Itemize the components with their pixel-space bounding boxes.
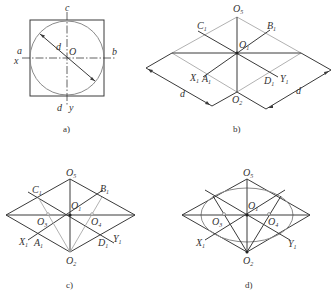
label-X1: X1: [189, 72, 199, 84]
label-d-left: d: [180, 88, 186, 99]
center-point-O1: [68, 213, 71, 216]
label-O1: O1: [248, 200, 258, 212]
caption-c: c): [66, 280, 73, 290]
label-O3: O3: [212, 216, 222, 228]
label-C1: C1: [32, 184, 42, 196]
label-A1: A1: [33, 237, 43, 249]
extension-left: [146, 53, 172, 68]
center-point-O1: [235, 51, 238, 54]
arrowhead-icon: [205, 101, 210, 105]
point-O2: [246, 251, 249, 254]
label-O1: O1: [239, 39, 249, 51]
label-Y1: Y1: [113, 233, 122, 245]
label-c: c: [65, 2, 70, 13]
label-B1: B1: [267, 20, 276, 32]
label-O1: O1: [71, 200, 81, 212]
label-O5: O5: [243, 167, 253, 179]
label-D1: D1: [263, 75, 274, 87]
label-O3: O3: [37, 216, 47, 228]
center-point-O1: [245, 213, 248, 216]
label-O: O: [69, 46, 76, 57]
label-B1: B1: [100, 183, 109, 195]
extension-right: [301, 53, 331, 70]
label-Y1: Y1: [288, 238, 297, 250]
label-O5: O5: [233, 3, 243, 15]
isometric-circle-construction-figure: c a x b d y O d a) O5 C1 B1 O1: [0, 0, 333, 297]
label-O4: O4: [268, 216, 278, 228]
caption-a: a): [63, 124, 70, 134]
point-O4: [268, 213, 271, 216]
label-O2: O2: [243, 255, 253, 267]
label-A1: A1: [201, 73, 211, 85]
label-Y1: Y1: [280, 73, 289, 85]
point-O4: [91, 213, 94, 216]
label-C1: C1: [197, 20, 207, 32]
label-b: b: [112, 46, 117, 57]
panel-d: O5 O1 O3 O4 X1 Y1 O2 d): [182, 167, 310, 290]
label-O4: O4: [91, 216, 101, 228]
label-x: x: [13, 55, 19, 66]
label-d-bottom: d: [57, 102, 63, 113]
diameter-dimension-line: [40, 34, 95, 81]
label-d-right: d: [296, 85, 302, 96]
point-O3: [47, 213, 50, 216]
caption-b: b): [233, 124, 241, 134]
label-O5: O5: [66, 167, 76, 179]
panel-a: c a x b d y O d a): [13, 2, 117, 134]
label-O2: O2: [66, 255, 76, 267]
panel-c: O5 C1 B1 O1 O3 O4 X1 A1 D1 Y1 O2 c): [6, 167, 135, 290]
label-O2: O2: [232, 94, 242, 106]
arrowhead-icon: [324, 71, 329, 75]
panel-b: O5 C1 B1 O1 X1 A1 Y1 D1 O2 d d b): [146, 3, 331, 134]
caption-d: d): [245, 280, 253, 290]
label-X1: X1: [195, 237, 205, 249]
arrowhead-icon: [148, 69, 153, 73]
label-X1: X1: [18, 236, 28, 248]
label-y: y: [68, 102, 74, 113]
point-O3: [223, 213, 226, 216]
label-d-diameter: d: [56, 41, 62, 52]
